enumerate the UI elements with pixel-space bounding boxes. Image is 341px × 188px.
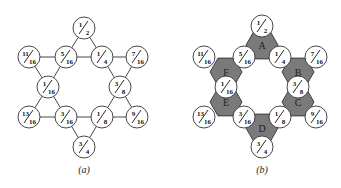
denominator: 16 [204,58,212,66]
fraction-node: 12 [73,17,95,39]
numerator: 1 [221,80,225,88]
fraction-node: 716 [126,46,148,68]
denominator: 16 [29,58,37,66]
denominator: 8 [300,88,304,96]
fraction-node: 18 [91,106,113,128]
panel-a: 121116516147161163813163161891634(a) [18,17,148,176]
fraction-node: 34 [251,136,273,158]
numerator: 1 [275,50,279,58]
fraction-node: 316 [55,106,77,128]
fraction-node: 716 [305,46,327,68]
fraction-node: 1316 [193,106,215,128]
denominator: 16 [137,118,145,126]
numerator: 1 [97,110,101,118]
denominator: 4 [282,58,286,66]
denominator: 16 [244,58,252,66]
numerator: 1 [257,19,261,27]
fraction-node: 18 [269,106,291,128]
fraction-node: 14 [269,46,291,68]
denominator: 16 [29,118,37,126]
caption-a: (a) [78,164,90,176]
numerator: 3 [115,80,119,88]
numerator: 3 [61,110,65,118]
hexagon-label: A [258,40,266,51]
fraction-node: 1116 [18,46,40,68]
denominator: 4 [86,148,90,156]
denominator: 16 [316,58,324,66]
numerator: 1 [79,21,83,29]
numerator: 3 [257,140,261,148]
denominator: 4 [264,148,268,156]
numerator: 1 [97,50,101,58]
hexagon-label: D [258,123,265,134]
numerator: 1 [275,110,279,118]
numerator: 7 [311,50,315,58]
denominator: 16 [244,118,252,126]
fraction-node: 34 [73,136,95,158]
numerator: 5 [239,50,243,58]
numerator: 9 [311,110,315,118]
denominator: 16 [204,118,212,126]
denominator: 8 [122,88,126,96]
fraction-node: 38 [287,76,309,98]
fraction-node: 316 [233,106,255,128]
denominator: 8 [104,118,108,126]
caption-b: (b) [256,164,268,176]
denominator: 16 [66,118,74,126]
fraction-node: 1116 [193,46,215,68]
fraction-node: 1316 [18,106,40,128]
panel-b: ABCDEF121116516147161163813163161891634(… [193,15,327,176]
star-of-david-fraction-diagram: 121116516147161163813163161891634(a) ABC… [0,0,341,188]
denominator: 16 [137,58,145,66]
denominator: 16 [48,88,56,96]
fraction-node: 116 [37,76,59,98]
numerator: 3 [239,110,243,118]
numerator: 9 [132,110,136,118]
numerator: 3 [293,80,297,88]
numerator: 1 [43,80,47,88]
fraction-node: 38 [109,76,131,98]
numerator: 7 [132,50,136,58]
fraction-node: 916 [305,106,327,128]
denominator: 16 [66,58,74,66]
fraction-node: 516 [233,46,255,68]
fraction-node: 516 [55,46,77,68]
fraction-node: 12 [251,15,273,37]
numerator: 5 [61,50,65,58]
denominator: 4 [104,58,108,66]
denominator: 8 [282,118,286,126]
fraction-node: 14 [91,46,113,68]
numerator: 3 [79,140,83,148]
fraction-node: 916 [126,106,148,128]
denominator: 2 [86,29,90,37]
denominator: 16 [226,88,234,96]
denominator: 2 [264,27,268,35]
fraction-node: 116 [215,76,237,98]
denominator: 16 [316,118,324,126]
